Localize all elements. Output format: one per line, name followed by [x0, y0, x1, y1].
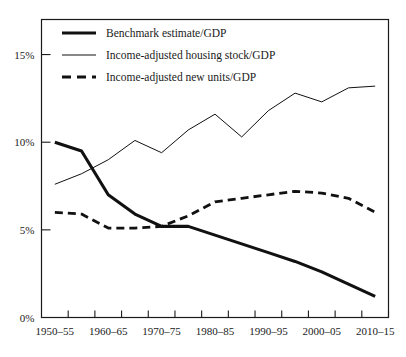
line-chart: 0%5%10%15%1950–551960–651970–751980–8519…	[0, 0, 406, 357]
legend-label: Benchmark estimate/GDP	[106, 27, 226, 39]
x-axis-tick-label: 1980–85	[196, 325, 235, 337]
x-axis-tick-label: 1970–75	[142, 325, 181, 337]
y-axis-tick-label: 0%	[20, 312, 35, 324]
legend-label: Income-adjusted housing stock/GDP	[106, 49, 275, 62]
series-line	[55, 86, 375, 184]
x-axis-tick-label: 1990–95	[249, 325, 288, 337]
series-line	[55, 142, 375, 296]
y-axis-tick-label: 15%	[14, 49, 34, 61]
legend-label: Income-adjusted new units/GDP	[106, 71, 256, 84]
x-axis-tick-label: 1950–55	[36, 325, 75, 337]
chart-figure: 0%5%10%15%1950–551960–651970–751980–8519…	[0, 0, 406, 357]
series-line	[55, 191, 375, 228]
x-axis-tick-label: 1960–65	[89, 325, 128, 337]
y-axis-tick-label: 5%	[20, 224, 35, 236]
y-axis-tick-label: 10%	[14, 136, 34, 148]
x-axis-tick-label: 2010–15	[356, 325, 395, 337]
x-axis-tick-label: 2000–05	[303, 325, 342, 337]
